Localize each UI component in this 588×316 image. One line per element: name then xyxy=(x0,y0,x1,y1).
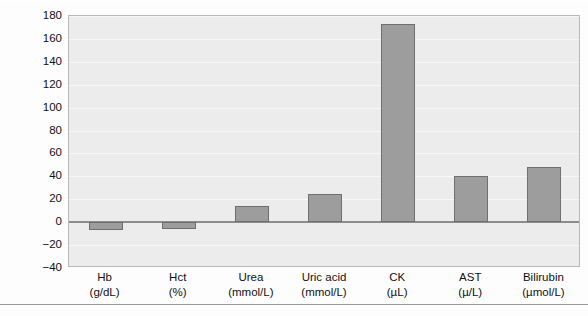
x-tick-label-unit: (µ/L) xyxy=(434,285,507,300)
bar xyxy=(89,222,123,230)
gridline xyxy=(69,62,579,63)
page-rule-bottom xyxy=(0,304,588,305)
gridline xyxy=(69,108,579,109)
y-tick-label: 20 xyxy=(18,192,62,204)
y-tick-label: 60 xyxy=(18,146,62,158)
x-tick-label-unit: (µL) xyxy=(361,285,434,300)
bar xyxy=(527,167,561,222)
bar xyxy=(308,194,342,223)
x-tick-label: CK(µL) xyxy=(361,270,434,300)
x-tick-label: Uric acid(mmol/L) xyxy=(287,270,360,300)
y-tick-label: 80 xyxy=(18,124,62,136)
bar xyxy=(454,176,488,222)
x-tick-label-name: AST xyxy=(459,271,481,283)
x-tick-label-unit: (µmol/L) xyxy=(507,285,580,300)
x-tick-label-unit: (mmol/L) xyxy=(214,285,287,300)
y-tick-label: 180 xyxy=(18,9,62,21)
x-tick-label-unit: (mmol/L) xyxy=(287,285,360,300)
chart-figure: Exercise-induced change (%) 180160140120… xyxy=(0,0,588,316)
y-tick-label: 0 xyxy=(18,215,62,227)
x-tick-label-name: CK xyxy=(389,271,405,283)
y-tick-label: 140 xyxy=(18,55,62,67)
x-tick-label: Hct(%) xyxy=(141,270,214,300)
gridline xyxy=(69,39,579,40)
gridline xyxy=(69,245,579,246)
gridline xyxy=(69,131,579,132)
y-tick-label: −20 xyxy=(18,238,62,250)
gridline xyxy=(69,16,579,17)
x-tick-label-unit: (%) xyxy=(141,285,214,300)
bar xyxy=(162,222,196,229)
x-tick-label-name: Urea xyxy=(238,271,263,283)
gridline xyxy=(69,176,579,177)
x-tick-label: AST(µ/L) xyxy=(434,270,507,300)
x-tick-label-name: Hct xyxy=(169,271,186,283)
bar xyxy=(381,24,415,222)
bar xyxy=(235,206,269,222)
y-tick-label: 160 xyxy=(18,32,62,44)
x-tick-label: Hb(g/dL) xyxy=(68,270,141,300)
x-tick-label: Urea(mmol/L) xyxy=(214,270,287,300)
gridline xyxy=(69,153,579,154)
x-tick-label: Bilirubin(µmol/L) xyxy=(507,270,580,300)
plot-area xyxy=(68,15,580,267)
gridline xyxy=(69,85,579,86)
y-tick-label: 40 xyxy=(18,169,62,181)
x-tick-label-unit: (g/dL) xyxy=(68,285,141,300)
x-tick-label-name: Bilirubin xyxy=(523,271,564,283)
y-tick-label: 120 xyxy=(18,78,62,90)
y-tick-label: −40 xyxy=(18,261,62,273)
x-tick-label-name: Hb xyxy=(97,271,112,283)
x-tick-label-name: Uric acid xyxy=(302,271,347,283)
y-tick-label: 100 xyxy=(18,101,62,113)
